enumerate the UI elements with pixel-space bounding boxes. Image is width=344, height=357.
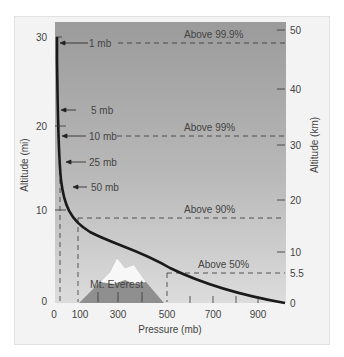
svg-text:20: 20	[290, 195, 302, 206]
svg-text:0: 0	[51, 309, 57, 320]
svg-text:700: 700	[205, 309, 222, 320]
svg-text:10: 10	[290, 247, 302, 258]
svg-text:50: 50	[290, 25, 302, 36]
svg-text:Above 99.9%: Above 99.9%	[184, 29, 244, 40]
svg-text:5 mb: 5 mb	[91, 105, 114, 116]
svg-text:Above 90%: Above 90%	[184, 204, 235, 215]
svg-text:Above 50%: Above 50%	[198, 259, 249, 270]
svg-text:500: 500	[159, 309, 176, 320]
svg-text:300: 300	[110, 309, 127, 320]
svg-text:0: 0	[41, 296, 47, 307]
y-axis-right-label: Altitude (km)	[309, 117, 320, 173]
svg-text:30: 30	[36, 32, 48, 43]
svg-text:25 mb: 25 mb	[89, 157, 117, 168]
y-axis-left-label: Altitude (mi)	[19, 138, 30, 191]
svg-text:40: 40	[290, 84, 302, 95]
svg-text:0: 0	[290, 298, 296, 309]
svg-text:10: 10	[36, 205, 48, 216]
svg-text:100: 100	[72, 309, 89, 320]
svg-text:900: 900	[250, 309, 267, 320]
pressure-altitude-chart: Mt. Everest 1 mb 5 mb 10 mb 25 mb 50 mb …	[0, 0, 344, 357]
everest-label: Mt. Everest	[90, 278, 143, 290]
svg-text:Above 99%: Above 99%	[184, 122, 235, 133]
svg-text:5.5: 5.5	[290, 268, 304, 279]
svg-text:1 mb: 1 mb	[89, 38, 112, 49]
svg-text:50 mb: 50 mb	[91, 182, 119, 193]
svg-text:10 mb: 10 mb	[89, 131, 117, 142]
svg-text:20: 20	[36, 121, 48, 132]
svg-text:30: 30	[290, 140, 302, 151]
x-axis: 0 100 300 500 700 900	[51, 309, 267, 320]
x-axis-label: Pressure (mb)	[138, 324, 201, 335]
